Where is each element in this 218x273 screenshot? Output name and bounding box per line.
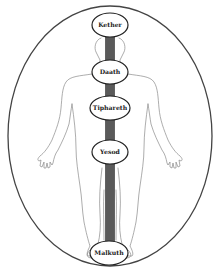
node-daath-label: Daath bbox=[100, 68, 121, 75]
right-leg-outline bbox=[128, 104, 148, 256]
left-leg-outline bbox=[72, 104, 92, 256]
node-kether: Kether bbox=[92, 13, 128, 37]
node-daath: Daath bbox=[92, 60, 128, 84]
node-tiphareth-label: Tiphareth bbox=[93, 104, 128, 112]
node-yesod: Yesod bbox=[92, 140, 128, 164]
right-arm-outline bbox=[128, 74, 182, 168]
node-malkuth-label: Malkuth bbox=[94, 249, 124, 256]
node-yesod-label: Yesod bbox=[99, 148, 120, 155]
node-kether-label: Kether bbox=[98, 21, 122, 28]
node-malkuth: Malkuth bbox=[90, 241, 128, 265]
left-arm-outline bbox=[38, 74, 92, 168]
middle-pillar-diagram: Kether Daath Tiphareth Yesod Malkuth bbox=[0, 0, 218, 273]
node-tiphareth: Tiphareth bbox=[90, 96, 130, 120]
